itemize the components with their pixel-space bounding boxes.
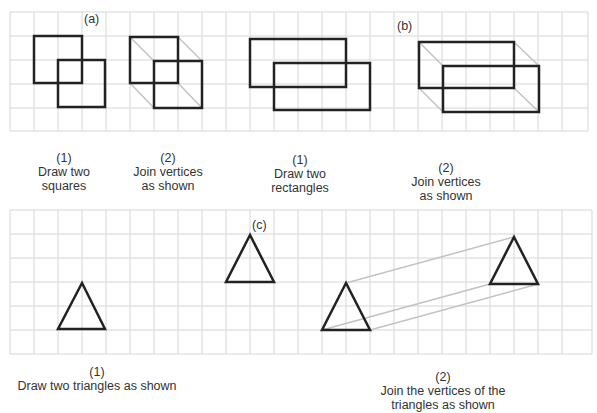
figure-b-step1-caption: (1) Draw two rectangles — [260, 153, 340, 195]
caption-line: as shown — [128, 179, 208, 193]
figure-b-step2-cuboid-joins — [419, 42, 539, 112]
bottom-grid — [10, 210, 592, 354]
caption-line: Draw two triangles as shown — [2, 379, 192, 393]
figure-a-step2-cube-joins — [130, 37, 202, 108]
caption-line: as shown — [406, 189, 486, 203]
caption-line: Draw two — [260, 167, 340, 181]
grid-paper-diagram — [0, 0, 597, 413]
step-number: (1) — [34, 151, 94, 165]
figure-b-step2-rectangles — [419, 42, 539, 112]
caption-line: rectangles — [260, 181, 340, 195]
caption-line: Join the vertices of the — [368, 384, 518, 398]
figure-b-step1-rectangles — [250, 39, 370, 110]
caption-line: squares — [34, 179, 94, 193]
caption-line: Join vertices — [406, 175, 486, 189]
figure-b-step2-caption: (2) Join vertices as shown — [406, 161, 486, 203]
figure-c-step2-triangles — [322, 237, 538, 330]
figure-c-step1-caption: (1) Draw two triangles as shown — [2, 365, 192, 393]
step-number: (2) — [368, 370, 518, 384]
step-number: (1) — [2, 365, 192, 379]
figure-a-step1-caption: (1) Draw two squares — [34, 151, 94, 193]
figure-a-step2-caption: (2) Join vertices as shown — [128, 151, 208, 193]
figure-a-label: (a) — [84, 12, 99, 26]
figure-b-label: (b) — [397, 19, 412, 33]
step-number: (2) — [406, 161, 486, 175]
caption-line: triangles as shown — [368, 398, 518, 412]
figure-c-label: (c) — [252, 218, 267, 232]
step-number: (1) — [260, 153, 340, 167]
figure-c-step2-caption: (2) Join the vertices of the triangles a… — [368, 370, 518, 412]
caption-line: Draw two — [34, 165, 94, 179]
caption-line: Join vertices — [128, 165, 208, 179]
figure-a-step1-squares — [34, 36, 105, 107]
step-number: (2) — [128, 151, 208, 165]
